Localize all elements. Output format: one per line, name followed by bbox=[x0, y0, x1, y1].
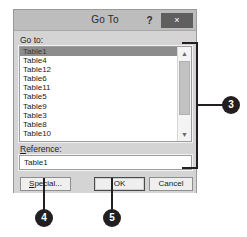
list-item[interactable]: Table5 bbox=[20, 92, 177, 101]
list-item[interactable]: Table6 bbox=[20, 74, 177, 83]
list-item[interactable]: Table12 bbox=[20, 65, 177, 74]
dialog-body: Go to: Table1Table4Table12Table6Table11T… bbox=[14, 31, 196, 193]
list-item[interactable]: Table11 bbox=[20, 83, 177, 92]
goto-label: Go to: bbox=[20, 35, 43, 45]
list-item[interactable]: Table8 bbox=[20, 120, 177, 129]
callout-3-bracket-bottom bbox=[182, 167, 198, 169]
callout-marker-5: 5 bbox=[103, 209, 121, 227]
callout-4-leader-line bbox=[43, 178, 45, 210]
list-item[interactable]: Table3 bbox=[20, 111, 177, 120]
cancel-button[interactable]: Cancel bbox=[149, 177, 193, 191]
help-icon[interactable]: ? bbox=[143, 13, 156, 28]
go-to-dialog: Go To ? × Go to: Table1Table4Table12Tabl… bbox=[13, 9, 197, 193]
list-item[interactable]: Table10 bbox=[20, 129, 177, 138]
callout-marker-3: 3 bbox=[222, 96, 240, 114]
list-item[interactable]: Table4 bbox=[20, 56, 177, 65]
special-button[interactable]: Special... bbox=[20, 177, 71, 191]
callout-3-leader-line bbox=[196, 104, 223, 106]
ok-button[interactable]: OK bbox=[94, 177, 145, 191]
listbox-scrollbar[interactable]: ▲ ▼ bbox=[177, 47, 191, 141]
goto-listbox[interactable]: Table1Table4Table12Table6Table11Table5Ta… bbox=[19, 46, 192, 142]
callout-5-leader-line bbox=[111, 178, 113, 210]
list-item[interactable]: Table9 bbox=[20, 102, 177, 111]
scrollbar-thumb[interactable] bbox=[179, 61, 190, 115]
reference-label: Reference: bbox=[20, 144, 62, 154]
close-icon[interactable]: × bbox=[161, 13, 193, 28]
scroll-up-icon[interactable]: ▲ bbox=[178, 47, 191, 60]
list-item[interactable]: Table1 bbox=[20, 47, 177, 56]
reference-label-rest: eference: bbox=[26, 144, 61, 154]
callout-marker-4: 4 bbox=[35, 209, 53, 227]
goto-list[interactable]: Table1Table4Table12Table6Table11Table5Ta… bbox=[20, 47, 177, 141]
dialog-titlebar: Go To ? × bbox=[14, 10, 196, 31]
scroll-down-icon[interactable]: ▼ bbox=[178, 128, 191, 141]
screenshot-root: Go To ? × Go to: Table1Table4Table12Tabl… bbox=[0, 0, 247, 237]
special-button-label: pecial... bbox=[34, 179, 62, 188]
reference-input[interactable]: Table1 bbox=[19, 155, 192, 170]
